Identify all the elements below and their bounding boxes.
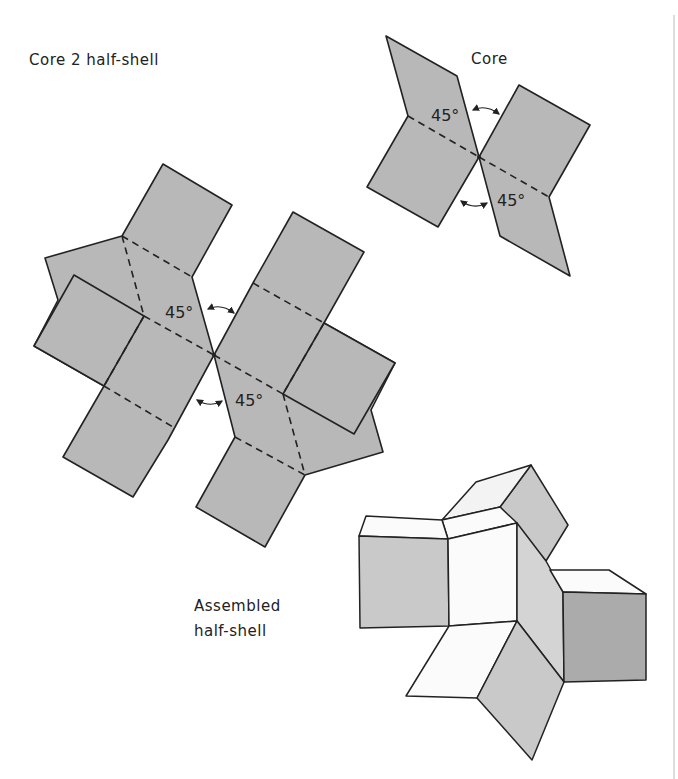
- shell-upper-rotation-arrow: [208, 307, 234, 313]
- core-lower-angle: 45°: [497, 191, 525, 210]
- core-upper-rotation-arrow: [473, 108, 499, 114]
- right-block-top-face: [550, 570, 646, 594]
- core-upper-angle: 45°: [431, 106, 459, 125]
- core-lower-rotation-arrow: [461, 201, 487, 206]
- core-net: 45° 45°: [367, 36, 590, 276]
- shell-lower-angle: 45°: [235, 391, 263, 410]
- left-block-front-face: [359, 536, 449, 628]
- diagram-canvas: 45° 45° 45° 45°: [0, 0, 678, 779]
- core-right-piece: [479, 85, 590, 276]
- shell-lower-rotation-arrow: [197, 400, 222, 404]
- right-block-front-face: [563, 592, 646, 682]
- half-shell-net: 45° 45°: [34, 164, 395, 547]
- left-block-top-face: [359, 516, 448, 539]
- middle-front-face: [448, 523, 517, 626]
- assembled-half-shell: [359, 465, 646, 760]
- core-left-piece: [367, 36, 479, 227]
- shell-upper-angle: 45°: [165, 303, 193, 322]
